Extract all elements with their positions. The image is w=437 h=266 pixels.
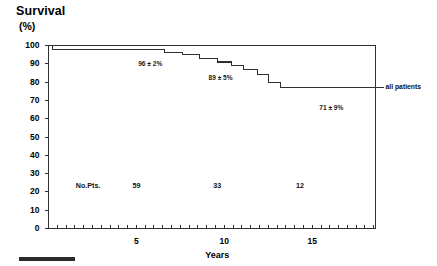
curve-annotation: 89 ± 5% <box>208 75 232 82</box>
y-axis-tick-label: 20 <box>16 187 40 196</box>
y-axis-tick-label: 100 <box>16 41 40 50</box>
scan-artifact-bar <box>19 257 75 261</box>
x-axis-tick-label: 10 <box>213 237 235 246</box>
survival-curve-line <box>49 46 376 99</box>
x-axis-tick-label: 5 <box>125 237 147 246</box>
numbers-at-risk-label: No.Pts. <box>76 182 101 189</box>
x-axis-title: Years <box>177 251 257 260</box>
y-axis-tick-label: 60 <box>16 114 40 123</box>
chart-axes <box>45 46 376 229</box>
y-axis-tick-label: 80 <box>16 78 40 87</box>
y-axis-tick-label: 30 <box>16 169 40 178</box>
series-label-all-patients: all patients <box>386 84 422 91</box>
x-axis-tick-label: 15 <box>301 237 323 246</box>
survival-chart-figure: Survival (%) 0102030405060708090100 5101… <box>0 0 437 266</box>
y-axis-tick-label: 10 <box>16 206 40 215</box>
curve-annotation: 71 ± 9% <box>319 105 343 112</box>
y-axis-tick-label: 70 <box>16 96 40 105</box>
numbers-at-risk-value: 33 <box>207 182 227 189</box>
y-axis-tick-label: 50 <box>16 133 40 142</box>
y-axis-tick-label: 90 <box>16 59 40 68</box>
numbers-at-risk-value: 12 <box>290 182 310 189</box>
survival-curve-svg <box>0 0 437 266</box>
curve-annotation: 96 ± 2% <box>138 61 162 68</box>
y-axis-tick-label: 0 <box>16 224 40 233</box>
numbers-at-risk-value: 59 <box>126 182 146 189</box>
y-axis-tick-label: 40 <box>16 151 40 160</box>
plot-area: 0102030405060708090100 51015 96 ± 2%89 ±… <box>0 0 437 266</box>
